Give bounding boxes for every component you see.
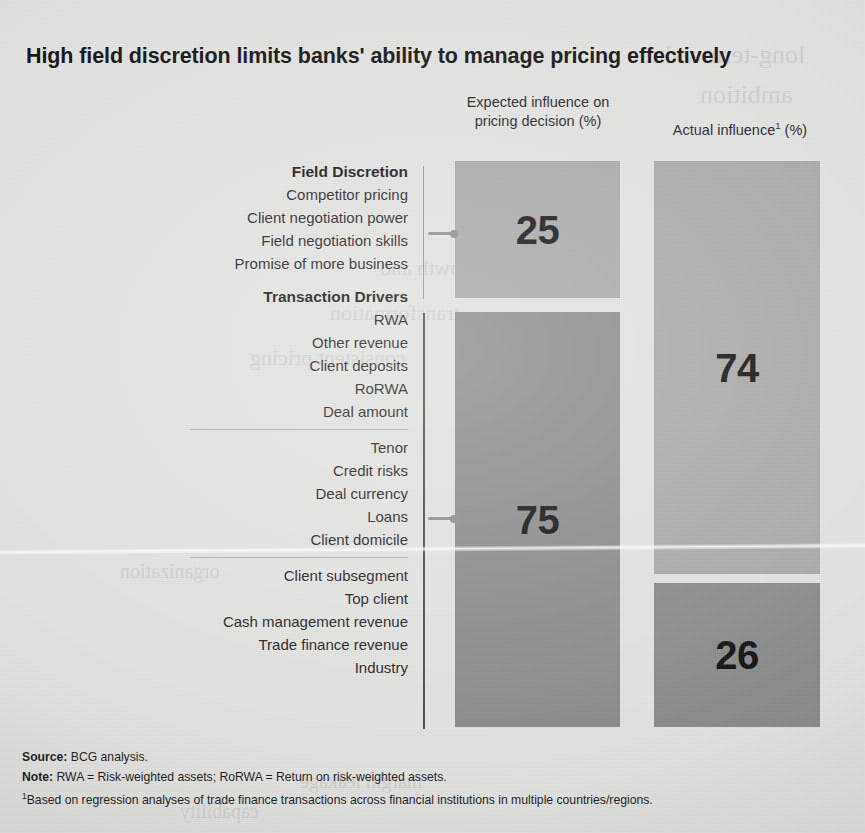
group-title-transaction-drivers: Transaction Drivers [40, 285, 423, 308]
bar-value-label: 75 [516, 500, 560, 540]
list-item: Client negotiation power [40, 206, 423, 229]
list-item: Other revenue [40, 331, 423, 354]
source-label: Source: [22, 750, 67, 764]
list-item: Tenor [40, 436, 423, 459]
connector-line-field-discretion [428, 232, 454, 235]
bar-value-label: 25 [516, 210, 560, 250]
numbered-footnote: 1Based on regression analyses of trade f… [22, 787, 852, 811]
connector-line-transaction-drivers [428, 517, 454, 520]
bar-actual-field-discretion: 74 [654, 161, 820, 574]
bracket-transaction-drivers [423, 313, 425, 729]
list-item: Competitor pricing [40, 183, 423, 206]
column-header-actual: Actual influence1 (%) [640, 116, 840, 140]
note-text: RWA = Risk-weighted assets; RoRWA = Retu… [53, 770, 447, 784]
list-item: Cash management revenue [40, 610, 423, 633]
list-item: Client subsegment [40, 564, 423, 587]
chart-page: long-term valueambitionsustainable growt… [0, 0, 865, 833]
definition-note: Note: RWA = Risk-weighted assets; RoRWA … [22, 768, 852, 788]
list-item: Credit risks [40, 459, 423, 482]
list-item: Trade finance revenue [40, 633, 423, 656]
list-item: Client domicile [40, 528, 423, 551]
column-header-expected-line1: Expected influence on [438, 93, 638, 112]
source-note: Source: BCG analysis. [22, 748, 852, 768]
bar-value-label: 26 [715, 635, 759, 675]
footnote-text: Based on regression analyses of trade fi… [27, 793, 653, 807]
list-item: Field negotiation skills [40, 229, 423, 252]
bar-value-label: 74 [715, 348, 759, 388]
page-title: High field discretion limits banks' abil… [26, 44, 826, 69]
footnotes: Source: BCG analysis. Note: RWA = Risk-w… [22, 748, 852, 811]
column-header-expected-line2: pricing decision (%) [438, 112, 638, 131]
driver-label-column: Field Discretion Competitor pricing Clie… [40, 160, 423, 679]
subgroup-divider [190, 557, 408, 558]
group-spacer [40, 275, 423, 285]
bar-expected-field-discretion: 25 [455, 161, 620, 298]
list-item: Client deposits [40, 354, 423, 377]
column-header-actual-unit: (%) [781, 122, 808, 138]
bar-actual-transaction-drivers: 26 [654, 583, 820, 727]
source-text: BCG analysis. [67, 750, 148, 764]
list-item: Loans [40, 505, 423, 528]
connector-dot-icon [450, 515, 458, 523]
subgroup-divider [190, 429, 408, 430]
bracket-field-discretion [423, 166, 424, 299]
list-item: RWA [40, 308, 423, 331]
list-item: Top client [40, 587, 423, 610]
list-item: Deal amount [40, 400, 423, 423]
bar-expected-transaction-drivers: 75 [455, 312, 620, 727]
group-title-field-discretion: Field Discretion [40, 160, 423, 183]
list-item: Deal currency [40, 482, 423, 505]
connector-dot-icon [450, 230, 458, 238]
list-item: RoRWA [40, 377, 423, 400]
column-header-actual-text: Actual influence [673, 122, 775, 138]
list-item: Industry [40, 656, 423, 679]
note-label: Note: [22, 770, 53, 784]
list-item: Promise of more business [40, 252, 423, 275]
column-header-expected: Expected influence on pricing decision (… [438, 93, 638, 131]
